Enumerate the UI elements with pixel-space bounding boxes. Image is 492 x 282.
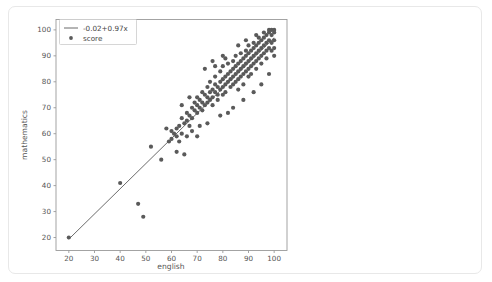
data-point <box>239 51 243 55</box>
data-point <box>236 87 240 91</box>
figure-card: 2030405060708090100 2030405060708090100 … <box>8 6 482 274</box>
x-tick-label: 100 <box>267 254 281 263</box>
data-point <box>272 46 276 50</box>
data-point <box>272 54 276 58</box>
data-point <box>195 134 199 138</box>
legend-marker-swatch <box>69 36 73 40</box>
legend-label-score: score <box>83 34 103 43</box>
data-point <box>177 124 181 128</box>
data-point <box>241 98 245 102</box>
data-point <box>254 33 258 37</box>
y-tick-label: 80 <box>42 77 52 86</box>
data-point <box>218 69 222 73</box>
x-tick-label: 70 <box>193 254 203 263</box>
y-tick-label: 70 <box>42 103 52 112</box>
data-point <box>205 121 209 125</box>
legend: -0.02+0.97x score <box>60 20 137 45</box>
data-point <box>241 82 245 86</box>
x-tick-label: 20 <box>64 254 74 263</box>
data-point <box>203 67 207 71</box>
x-tick-label: 40 <box>116 254 126 263</box>
data-point <box>175 150 179 154</box>
data-point <box>185 134 189 138</box>
y-tick-label: 60 <box>42 129 52 138</box>
data-point <box>259 82 263 86</box>
data-point <box>208 80 212 84</box>
y-tick-label: 30 <box>42 207 52 216</box>
data-point <box>267 72 271 76</box>
x-tick-label: 80 <box>218 254 228 263</box>
regression-line <box>69 38 274 239</box>
data-point <box>210 95 214 99</box>
y-tick-label: 40 <box>42 181 52 190</box>
data-point <box>218 113 222 117</box>
data-point <box>216 98 220 102</box>
data-point <box>177 139 181 143</box>
data-point <box>259 62 263 66</box>
data-point <box>223 90 227 94</box>
axes-frame <box>56 20 287 251</box>
data-point <box>226 62 230 66</box>
data-point <box>187 95 191 99</box>
y-tick-labels: 2030405060708090100 <box>37 25 51 242</box>
data-point <box>198 124 202 128</box>
legend-label-fit: -0.02+0.97x <box>83 24 129 33</box>
data-point <box>213 64 217 68</box>
data-point <box>231 106 235 110</box>
data-point <box>210 59 214 63</box>
scatter-points <box>67 28 277 240</box>
data-point <box>223 56 227 60</box>
data-point <box>141 215 145 219</box>
data-point <box>182 152 186 156</box>
data-point <box>200 108 204 112</box>
data-point <box>246 43 250 47</box>
data-point <box>205 85 209 89</box>
y-tick-label: 50 <box>42 155 52 164</box>
data-point <box>180 116 184 120</box>
x-tick-label: 90 <box>244 254 254 263</box>
data-point <box>149 145 153 149</box>
data-point <box>231 59 235 63</box>
data-point <box>221 64 225 68</box>
x-tick-label: 30 <box>90 254 100 263</box>
plot-canvas: 2030405060708090100 2030405060708090100 … <box>9 7 309 275</box>
data-point <box>136 202 140 206</box>
data-point <box>180 132 184 136</box>
data-point <box>226 111 230 115</box>
data-point <box>244 38 248 42</box>
y-tick-label: 20 <box>42 233 52 242</box>
data-point <box>159 158 163 162</box>
x-axis-title: english <box>157 262 184 271</box>
y-axis-title: mathematics <box>20 110 29 160</box>
x-tick-label: 50 <box>141 254 151 263</box>
data-point <box>249 72 253 76</box>
data-point <box>236 43 240 47</box>
data-point <box>234 54 238 58</box>
data-point <box>118 181 122 185</box>
data-point <box>254 67 258 71</box>
data-point <box>252 90 256 94</box>
scatter-plot-figure: 2030405060708090100 2030405060708090100 … <box>9 7 309 275</box>
data-point <box>264 56 268 60</box>
data-point <box>190 129 194 133</box>
y-tick-label: 90 <box>42 51 52 60</box>
data-point <box>213 75 217 79</box>
y-tick-label: 100 <box>37 25 51 34</box>
data-point <box>187 124 191 128</box>
data-point <box>164 126 168 130</box>
data-point <box>210 103 214 107</box>
data-point <box>272 28 276 32</box>
data-point <box>180 103 184 107</box>
